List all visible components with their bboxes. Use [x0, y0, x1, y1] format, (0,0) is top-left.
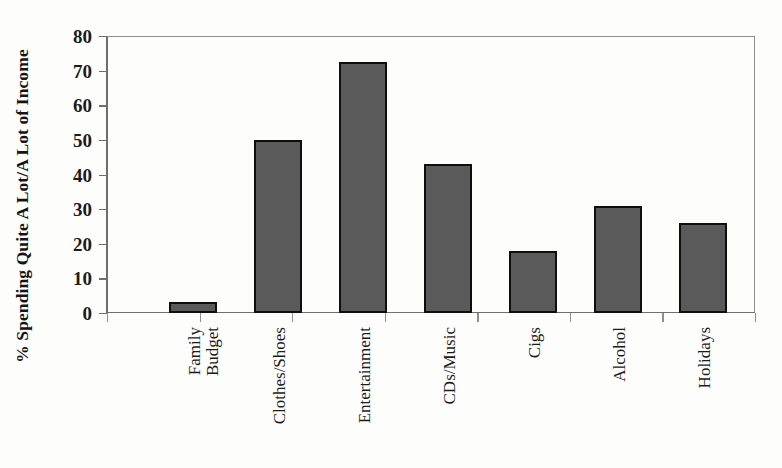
- y-axis-tick-label: 30: [48, 200, 92, 219]
- y-axis-tick-label: 0: [48, 304, 92, 323]
- x-axis-label-line1: Family: [185, 327, 204, 375]
- bar-cigs[interactable]: [509, 251, 557, 313]
- bar-alcohol[interactable]: [594, 206, 642, 313]
- bar-entertainment[interactable]: [339, 62, 387, 313]
- x-axis-label-cds-music: CDs/Music: [441, 327, 459, 468]
- x-axis-tick-mark: [570, 313, 571, 322]
- x-axis-label-family-budget: Family Budget: [186, 327, 222, 468]
- y-axis-title-container: % Spending Quite A Lot/A Lot of Income: [0, 0, 42, 430]
- x-axis-tick-mark: [477, 313, 478, 322]
- x-axis-tick-mark: [662, 313, 663, 322]
- x-axis-tick-mark: [292, 313, 293, 322]
- x-axis-tick-mark: [755, 313, 756, 322]
- y-axis-tick-label: 10: [48, 269, 92, 288]
- x-axis-tick-mark: [200, 313, 201, 322]
- bar-holidays[interactable]: [679, 223, 727, 313]
- x-axis-label-holidays: Holidays: [696, 327, 714, 468]
- x-axis-tick-mark: [385, 313, 386, 322]
- y-axis-tick-label: 40: [48, 166, 92, 185]
- bar-family-budget[interactable]: [169, 302, 217, 313]
- bar-chart-figure: % Spending Quite A Lot/A Lot of Income 8…: [0, 0, 782, 468]
- y-axis-tick-label: 80: [48, 27, 92, 46]
- y-axis-title: % Spending Quite A Lot/A Lot of Income: [12, 6, 33, 406]
- x-axis-label-alcohol: Alcohol: [611, 327, 629, 468]
- bar-clothes-shoes[interactable]: [254, 140, 302, 313]
- x-axis-label-clothes-shoes: Clothes/Shoes: [271, 327, 289, 468]
- x-axis-label-entertainment: Entertainment: [356, 327, 374, 468]
- x-axis-label-line2: Budget: [204, 327, 222, 468]
- x-axis-label-cigs: Cigs: [526, 327, 544, 468]
- bar-cds-music[interactable]: [424, 164, 472, 313]
- y-axis-tick-label: 60: [48, 96, 92, 115]
- y-axis-tick-label: 70: [48, 62, 92, 81]
- y-axis-tick-label: 50: [48, 131, 92, 150]
- y-axis-tick-label: 20: [48, 235, 92, 254]
- x-axis-tick-mark: [107, 313, 108, 322]
